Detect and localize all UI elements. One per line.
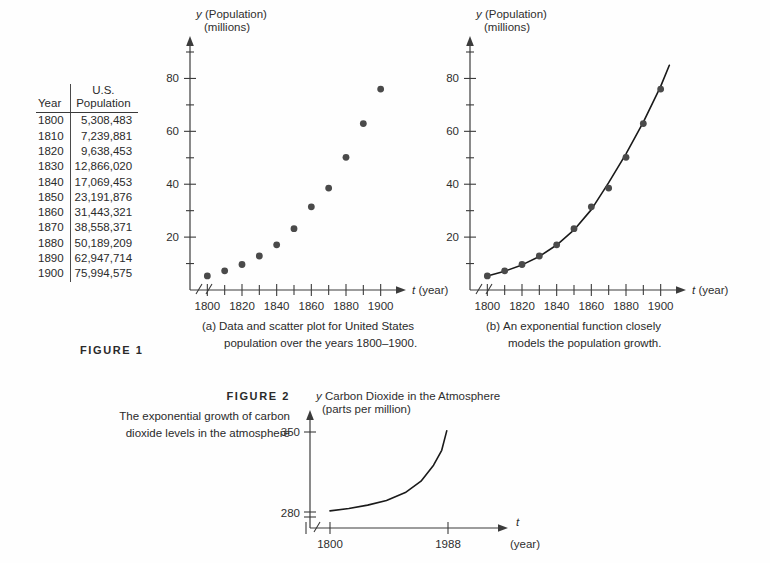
panel-b-caption-line2: models the population growth.	[486, 335, 736, 352]
cell-year: 1840	[36, 175, 70, 190]
x-tick-label-1880: 1880	[333, 300, 359, 312]
cell-population: 62,947,714	[70, 251, 138, 266]
panel-a-y-axis-title-line1: y (Population)	[195, 8, 267, 20]
y-tick-label-60: 60	[446, 125, 459, 137]
cell-year: 1850	[36, 190, 70, 205]
panel-b-svg: 20406080 180018201840186018801900 y (Pop…	[440, 22, 720, 312]
panel-b-caption: (b)An exponential function closely model…	[486, 318, 736, 351]
x-tick-label-1880: 1880	[613, 300, 639, 312]
cell-year: 1890	[36, 251, 70, 266]
x-tick-label-1860: 1860	[579, 300, 605, 312]
data-point-1850	[291, 225, 298, 232]
panel-a-caption-text1: Data and scatter plot for United States	[219, 320, 414, 332]
panel-a-y-axis-title-line2: (millions)	[204, 21, 250, 33]
column-header-population: U.S. Population	[70, 84, 138, 113]
data-point-1810	[501, 267, 508, 274]
panel-b-y-axis-title-line1: y (Population)	[475, 8, 547, 20]
cell-population: 38,558,371	[70, 220, 138, 235]
data-point-1800	[484, 273, 491, 280]
x-tick-label-1820: 1820	[509, 300, 535, 312]
panel-b-x-ticks: 180018201840186018801900	[475, 284, 674, 312]
panel-a-data-points	[204, 86, 384, 280]
cell-population: 50,189,209	[70, 236, 138, 251]
cell-year: 1870	[36, 220, 70, 235]
panel-b-y-axis-title-line2: (millions)	[484, 21, 530, 33]
x-axis-arrowhead	[676, 286, 686, 294]
figure2-label: FIGURE 2	[75, 388, 290, 405]
table-row: 183012,866,020	[36, 159, 138, 174]
y-tick-label-20: 20	[446, 231, 459, 243]
cell-year: 1880	[36, 236, 70, 251]
cell-year: 1830	[36, 159, 70, 174]
panel-b-caption-text1: An exponential function closely	[503, 320, 661, 332]
y-tick-label-80: 80	[446, 72, 459, 84]
cell-year: 1860	[36, 205, 70, 220]
data-point-1850	[571, 225, 578, 232]
figure2-x-axis-unit: (year)	[510, 538, 540, 550]
figure2-chart: 350 280 1800 1988 y Carbon Dioxide in th…	[288, 388, 588, 556]
data-point-1870	[605, 185, 612, 192]
panel-a-svg: 20406080 180018201840186018801900 y (Pop…	[160, 22, 440, 312]
x-tick-label-1800: 1800	[475, 300, 501, 312]
table-row: 189062,947,714	[36, 251, 138, 266]
data-point-1870	[325, 185, 332, 192]
panel-b-y-axis	[466, 36, 474, 290]
table-row: 18107,239,881	[36, 129, 138, 144]
y-axis-arrowhead	[466, 36, 474, 46]
y-tick-label-80: 80	[166, 72, 179, 84]
figure1-panel-b-chart: 20406080 180018201840186018801900 y (Pop…	[440, 22, 720, 312]
data-point-1890	[360, 120, 367, 127]
panel-b-caption-line1: (b)An exponential function closely	[486, 318, 736, 335]
table-row: 187038,558,371	[36, 220, 138, 235]
data-point-1830	[256, 253, 263, 260]
y-tick-label-60: 60	[166, 125, 179, 137]
cell-year: 1800	[36, 113, 70, 129]
panel-a-x-axis	[190, 284, 406, 294]
figure2-caption: FIGURE 2 The exponential growth of carbo…	[75, 388, 290, 442]
figure2-y-axis-title: y Carbon Dioxide in the Atmosphere	[315, 390, 500, 402]
y-axis-arrowhead	[306, 410, 314, 420]
panel-a-x-ticks: 180018201840186018801900	[195, 284, 394, 312]
data-point-1820	[519, 261, 526, 268]
data-point-1830	[536, 253, 543, 260]
data-point-1800	[204, 273, 211, 280]
figure2-caption-line1: The exponential growth of carbon	[75, 408, 290, 425]
data-point-1900	[657, 86, 664, 93]
cell-population: 12,866,020	[70, 159, 138, 174]
data-point-1900	[377, 86, 384, 93]
panel-a-y-ticks: 20406080	[166, 52, 196, 264]
x-tick-label-1820: 1820	[229, 300, 255, 312]
cell-population: 75,994,575	[70, 266, 138, 281]
y-tick-label-20: 20	[166, 231, 179, 243]
table-row: 186031,443,321	[36, 205, 138, 220]
x-axis-arrowhead	[396, 286, 406, 294]
cell-year: 1810	[36, 129, 70, 144]
panel-a-marker: (a)	[202, 320, 216, 332]
table-body: 18005,308,48318107,239,88118209,638,4531…	[36, 113, 138, 282]
cell-population: 7,239,881	[70, 129, 138, 144]
figure-page: Year U.S. Population 18005,308,48318107,…	[0, 0, 770, 563]
y-tick-label-40: 40	[446, 178, 459, 190]
cell-population: 23,191,876	[70, 190, 138, 205]
figure2-x-axis-name: t	[516, 516, 520, 528]
x-tick-label-1800: 1800	[317, 538, 343, 550]
figure2-co2-curve	[330, 431, 447, 511]
y-tick-label-350: 350	[281, 426, 300, 438]
panel-b-exponential-fit-curve	[487, 65, 669, 276]
panel-a-caption-line2: population over the years 1800–1900.	[202, 335, 452, 352]
cell-population: 9,638,453	[70, 144, 138, 159]
figure2-y-axis-unit: (parts per million)	[322, 403, 411, 415]
x-axis-arrowhead	[498, 524, 508, 532]
data-point-1880	[343, 154, 350, 161]
panel-a-caption: (a)Data and scatter plot for United Stat…	[202, 318, 452, 351]
figure2-svg: 350 280 1800 1988 y Carbon Dioxide in th…	[288, 388, 588, 556]
cell-year: 1820	[36, 144, 70, 159]
cell-population: 5,308,483	[70, 113, 138, 129]
data-point-1860	[308, 203, 315, 210]
figure1-panel-a-chart: 20406080 180018201840186018801900 y (Pop…	[160, 22, 440, 312]
x-tick-label-1840: 1840	[544, 300, 570, 312]
data-point-1840	[273, 241, 280, 248]
figure2-caption-line2: dioxide levels in the atmosphere	[75, 425, 290, 442]
us-population-table: Year U.S. Population 18005,308,48318107,…	[36, 84, 164, 282]
panel-b-x-axis-title: t (year)	[692, 284, 729, 296]
